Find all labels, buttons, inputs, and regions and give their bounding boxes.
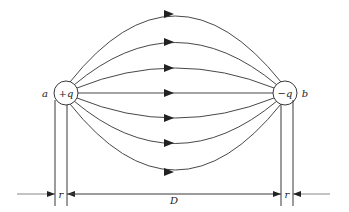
- field-line-7: [70, 104, 281, 170]
- arrow-icon: [164, 64, 174, 72]
- arrow-icon: [164, 10, 174, 18]
- arrow-icon: [164, 139, 174, 147]
- field-line-1: [70, 16, 281, 82]
- field-lines: [70, 16, 281, 170]
- field-line-diagram: +q −q a b r D r: [0, 0, 349, 212]
- point-b-label: b: [302, 88, 308, 99]
- separation-label: D: [169, 195, 178, 206]
- positive-charge-label: +q: [59, 88, 74, 99]
- left-radius-label: r: [59, 189, 65, 200]
- arrow-icon: [164, 168, 174, 176]
- point-a-label: a: [42, 88, 48, 99]
- field-line-5: [77, 98, 274, 118]
- arrow-icon: [164, 89, 174, 97]
- negative-charge-label: −q: [278, 88, 293, 99]
- arrow-icon: [164, 114, 174, 122]
- right-radius-label: r: [285, 189, 291, 200]
- field-line-3: [77, 68, 274, 88]
- arrow-icon: [164, 38, 174, 46]
- arrow-heads: [164, 10, 174, 176]
